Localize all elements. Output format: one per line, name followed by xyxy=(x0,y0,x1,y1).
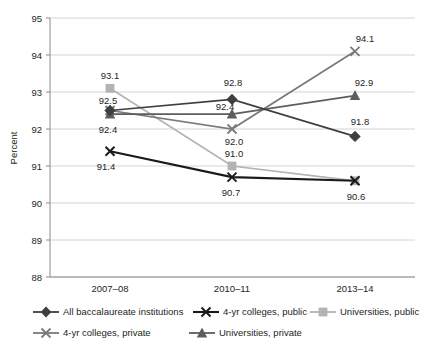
chart-background xyxy=(0,0,434,352)
data-label: 91.0 xyxy=(225,148,244,159)
data-label: 90.6 xyxy=(347,191,366,202)
y-tick-label: 88 xyxy=(31,272,42,283)
y-axis-title: Percent xyxy=(8,131,19,164)
line-chart: 95 94 93 92 91 90 89 88 Percent 2007–08 … xyxy=(0,0,434,352)
data-label: 92.8 xyxy=(224,77,243,88)
chart-svg: 95 94 93 92 91 90 89 88 Percent 2007–08 … xyxy=(0,0,434,352)
data-label: 92.4 xyxy=(216,101,235,112)
y-tick-label: 92 xyxy=(31,124,42,135)
legend-label: 4-yr colleges, private xyxy=(63,327,151,338)
x-tick-label: 2013–14 xyxy=(337,283,374,294)
data-label: 92.9 xyxy=(355,77,374,88)
y-tick-label: 93 xyxy=(31,87,42,98)
data-label: 92.4 xyxy=(99,124,118,135)
square-icon xyxy=(228,162,237,171)
legend-item-4yr-colleges-public[interactable]: 4-yr colleges, public xyxy=(193,306,307,317)
legend-label: Universities, public xyxy=(340,306,419,317)
x-tick-label: 2007–08 xyxy=(92,283,129,294)
data-label: 91.4 xyxy=(97,161,116,172)
legend-item-universities-public[interactable]: Universities, public xyxy=(310,306,419,317)
data-label: 94.1 xyxy=(356,33,375,44)
legend-label: All baccalaureate institutions xyxy=(63,306,184,317)
legend-label: Universities, private xyxy=(219,327,302,338)
x-tick-label: 2010–11 xyxy=(214,283,250,294)
data-label: 92.5 xyxy=(99,95,118,106)
y-tick-label: 94 xyxy=(31,50,42,61)
y-tick-label: 91 xyxy=(31,161,42,172)
data-label: 92.0 xyxy=(225,136,244,147)
square-icon xyxy=(106,84,115,93)
data-label: 90.7 xyxy=(222,187,241,198)
data-label: 93.1 xyxy=(101,70,120,81)
y-tick-label: 89 xyxy=(31,235,42,246)
y-tick-label: 90 xyxy=(31,198,42,209)
y-tick-label: 95 xyxy=(31,13,42,24)
square-icon xyxy=(319,308,328,317)
data-label: 91.8 xyxy=(351,116,370,127)
legend-label: 4-yr colleges, public xyxy=(223,306,307,317)
